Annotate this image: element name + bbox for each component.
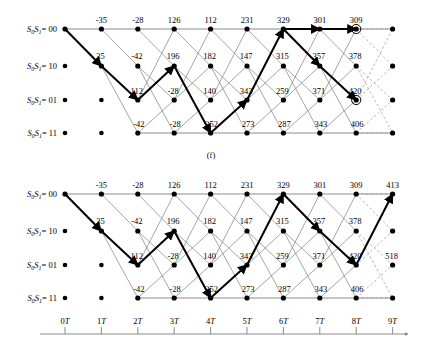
- path-metric-10: 357: [312, 216, 325, 226]
- trellis-node-unreached: [99, 131, 104, 136]
- path-metric-10: 35: [96, 51, 105, 61]
- trellis-node: [281, 228, 286, 233]
- path-metric-11: -42: [133, 284, 144, 294]
- path-metric-10: 315: [276, 51, 289, 61]
- path-metric-01: 112: [131, 86, 143, 96]
- trellis-node: [172, 295, 177, 300]
- trellis-node: [281, 97, 286, 102]
- path-metric-11: -28: [170, 284, 181, 294]
- path-metric-01: 140: [203, 251, 216, 261]
- path-metric-11: 273: [242, 284, 255, 294]
- trellis-node: [354, 130, 359, 135]
- path-metric-11: 252: [205, 119, 218, 129]
- path-metric-10: 182: [203, 51, 216, 61]
- state-label-bottom-2: S0S1= 01: [27, 260, 57, 271]
- trellis-node-unreached: [63, 263, 68, 268]
- path-metric-00: -35: [96, 15, 107, 25]
- trellis-node-unreached: [99, 296, 104, 301]
- trellis-node: [172, 97, 177, 102]
- time-axis-label-4: 4T: [206, 316, 216, 326]
- trellis-node: [172, 191, 177, 196]
- state-label-top-2: S0S1= 01: [27, 95, 57, 106]
- trellis-node: [135, 295, 140, 300]
- trellis-node: [99, 191, 104, 196]
- trellis-node-unreached: [63, 131, 68, 136]
- path-metric-00: 309: [350, 180, 363, 190]
- time-axis-label-2: 2T: [133, 316, 143, 326]
- trellis-node: [135, 228, 140, 233]
- trellis-branch: [356, 66, 392, 100]
- path-metric-11: 406: [351, 284, 364, 294]
- path-metric-01: 343: [240, 251, 253, 261]
- trellis-node: [135, 26, 140, 31]
- trellis-node: [281, 63, 286, 68]
- path-metric-00: 126: [168, 180, 181, 190]
- path-metric-11: 273: [242, 119, 255, 129]
- path-metric-11: 287: [278, 119, 291, 129]
- trellis-node: [244, 295, 249, 300]
- trellis-node: [390, 130, 395, 135]
- path-metric-10: 147: [240, 216, 253, 226]
- path-metric-01: 259: [276, 251, 289, 261]
- trellis-node: [172, 26, 177, 31]
- trellis-node: [208, 262, 213, 267]
- trellis-node: [208, 26, 213, 31]
- figure-caption-f: (f): [207, 150, 216, 160]
- trellis-node: [99, 26, 104, 31]
- trellis-node: [135, 63, 140, 68]
- path-metric-11: 406: [351, 119, 364, 129]
- path-metric-00: -28: [132, 180, 143, 190]
- time-axis-label-8: 8T: [352, 316, 362, 326]
- path-metric-00: 231: [241, 15, 254, 25]
- trellis-node: [354, 228, 359, 233]
- path-metric-10: 147: [240, 51, 253, 61]
- trellis-node: [390, 228, 395, 233]
- trellis-node-unreached: [63, 64, 68, 69]
- path-metric-00: -28: [132, 15, 143, 25]
- trellis-node: [390, 295, 395, 300]
- path-metric-01: 518: [385, 251, 398, 261]
- trellis-node: [317, 191, 322, 196]
- trellis-node: [208, 63, 213, 68]
- trellis-node: [317, 97, 322, 102]
- trellis-node: [172, 130, 177, 135]
- path-metric-01: 259: [276, 86, 289, 96]
- path-metric-00: 301: [313, 15, 326, 25]
- trellis-node-unreached: [99, 263, 104, 268]
- trellis-node: [354, 191, 359, 196]
- path-metric-10: 196: [167, 216, 180, 226]
- path-metric-00: 329: [277, 180, 290, 190]
- time-axis-label-3: 3T: [170, 316, 180, 326]
- trellis-node: [390, 63, 395, 68]
- path-metric-01: 420: [349, 251, 362, 261]
- path-metric-01: 112: [131, 251, 143, 261]
- path-metric-10: 378: [349, 51, 362, 61]
- path-metric-01: -28: [168, 251, 179, 261]
- trellis-node-unreached: [63, 296, 68, 301]
- path-metric-01: 371: [312, 251, 325, 261]
- path-metric-00: 413: [386, 180, 399, 190]
- path-metric-00: 112: [204, 180, 216, 190]
- state-label-top-0: S0S1= 00: [27, 24, 57, 35]
- path-metric-10: -42: [131, 51, 142, 61]
- trellis-node: [354, 63, 359, 68]
- trellis-node: [281, 130, 286, 135]
- time-axis-label-0: 0T: [61, 316, 71, 326]
- state-label-bottom-3: S0S1= 11: [27, 293, 57, 304]
- trellis-node: [244, 26, 249, 31]
- state-label-bottom-0: S0S1= 00: [27, 189, 57, 200]
- trellis-figure: -35-2812611223132930130935-4219618214731…: [0, 0, 422, 352]
- path-metric-00: 329: [277, 15, 290, 25]
- path-metric-11: 252: [205, 284, 218, 294]
- trellis-node: [208, 191, 213, 196]
- path-metric-10: 196: [167, 51, 180, 61]
- path-metric-01: -28: [168, 86, 179, 96]
- trellis-node: [244, 63, 249, 68]
- path-metric-01: 343: [240, 86, 253, 96]
- trellis-node: [172, 262, 177, 267]
- path-metric-11: -42: [133, 119, 144, 129]
- trellis-node: [281, 295, 286, 300]
- trellis-node: [244, 130, 249, 135]
- path-metric-00: 126: [168, 15, 181, 25]
- path-metric-11: -28: [170, 119, 181, 129]
